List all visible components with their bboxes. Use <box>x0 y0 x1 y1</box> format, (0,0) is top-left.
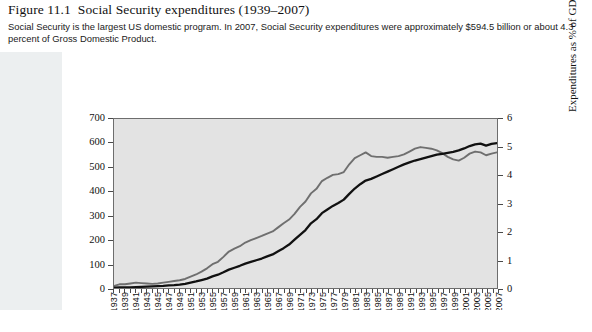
figure-bottom-strip <box>0 310 592 332</box>
y-axis-right-tick-label: 0 <box>507 284 527 294</box>
y-axis-left-tick-label: 400 <box>71 186 105 196</box>
y-axis-left-tick-label: 600 <box>71 137 105 147</box>
figure-caption: Social Security is the largest US domest… <box>8 21 576 46</box>
page-title: Social Security expenditures (1939–2007) <box>78 2 310 17</box>
y-axis-right-tickmark <box>498 147 503 148</box>
series-line-billions <box>114 143 497 288</box>
series-line-gdp-percent <box>114 147 497 286</box>
y-axis-right-title: Expenditures as % of GDP <box>566 0 578 112</box>
y-axis-right-tickmark <box>498 261 503 262</box>
y-axis-right-tickmark <box>498 232 503 233</box>
plot-frame <box>113 118 498 289</box>
y-axis-right-tick-label: 4 <box>507 170 527 180</box>
y-axis-right-tickmark <box>498 118 503 119</box>
figure-title-line: Figure 11.1Social Security expenditures … <box>8 2 584 18</box>
y-axis-left-tick-label: 200 <box>71 235 105 245</box>
figure-container: Figure 11.1Social Security expenditures … <box>0 0 592 332</box>
y-axis-left-tick-label: 0 <box>71 284 105 294</box>
figure-header: Figure 11.1Social Security expenditures … <box>8 2 584 46</box>
y-axis-right-tickmark <box>498 175 503 176</box>
y-axis-left-tick-label: 700 <box>71 113 105 123</box>
y-axis-right-tick-label: 1 <box>507 256 527 266</box>
chart-area: Real expenditures (2007 $ billions) Expe… <box>0 52 592 310</box>
plot-canvas <box>114 119 497 288</box>
y-axis-right-tick-label: 2 <box>507 227 527 237</box>
figure-number: Figure 11.1 <box>8 2 71 17</box>
y-axis-right-tick-label: 6 <box>507 113 527 123</box>
y-axis-right-tick-label: 5 <box>507 142 527 152</box>
y-axis-right-tickmark <box>498 204 503 205</box>
y-axis-left-tick-label: 300 <box>71 211 105 221</box>
y-axis-left-tick-label: 100 <box>71 260 105 270</box>
y-axis-left-tick-label: 500 <box>71 162 105 172</box>
y-axis-right-tick-label: 3 <box>507 199 527 209</box>
